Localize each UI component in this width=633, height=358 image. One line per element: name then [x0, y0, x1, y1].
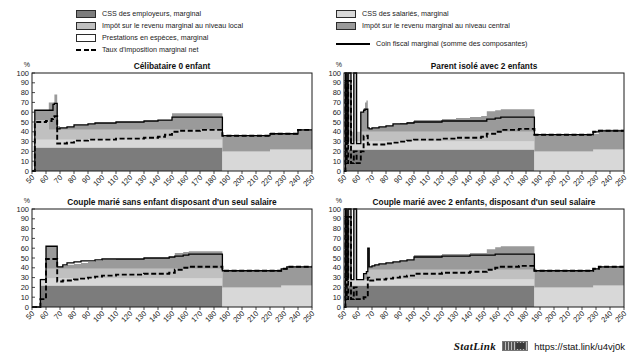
x-tick-label: 80: [378, 309, 390, 321]
x-tick-label: 220: [571, 173, 586, 188]
y-tick-label: 10: [333, 157, 341, 166]
x-tick-label: 220: [259, 173, 274, 188]
legend-label-local-income-tax: Impôt sur le revenu marginal au niveau l…: [102, 21, 243, 30]
chart-panel-parent-isole-2-enfants: Parent isolé avec 2 enfants%010203040506…: [318, 60, 630, 196]
legend-column-right: CSS des salariés, marginal Impôt sur le …: [336, 8, 527, 50]
statlink[interactable]: StatLink https://stat.link/u4vj0k: [454, 340, 625, 352]
chart-title: Parent isolé avec 2 enfants: [431, 61, 538, 71]
x-tick-label: 230: [273, 173, 288, 188]
y-tick-label: 50: [333, 118, 341, 127]
x-tick-label: 230: [585, 309, 600, 324]
x-tick-label: 60: [38, 309, 50, 321]
x-tick-label: 70: [52, 309, 64, 321]
x-tick-label: 90: [80, 173, 92, 185]
x-tick-label: 120: [119, 173, 134, 188]
x-tick-label: 130: [445, 309, 460, 324]
y-tick-label: 70: [21, 234, 29, 243]
x-tick-label: 240: [599, 173, 614, 188]
y-tick-label: 20: [21, 283, 29, 292]
chart-svg-couple-marie-sans-enfant: Couple marié sans enfant disposant d'un …: [6, 196, 318, 332]
y-tick-label: 80: [333, 224, 341, 233]
y-tick-label: 90: [333, 214, 341, 223]
x-tick-label: 240: [287, 309, 302, 324]
x-tick-label: 220: [259, 309, 274, 324]
legend-item-employee-sc: CSS des salariés, marginal: [336, 8, 527, 19]
x-tick-label: 120: [431, 309, 446, 324]
x-tick-label: 250: [613, 309, 628, 324]
x-tick-label: 130: [133, 309, 148, 324]
x-tick-label: 190: [217, 173, 232, 188]
y-tick-label: 10: [333, 293, 341, 302]
x-tick-label: 190: [529, 309, 544, 324]
legend-swatch-cash-benefits: [76, 34, 96, 42]
x-tick-label: 100: [91, 173, 106, 188]
chart-title: Couple marié avec 2 enfants, disposant d…: [373, 197, 596, 207]
y-tick-label: 100: [16, 69, 29, 78]
x-tick-label: 200: [231, 309, 246, 324]
x-tick-label: 150: [473, 173, 488, 188]
x-tick-label: 230: [585, 173, 600, 188]
x-tick-label: 110: [418, 309, 433, 324]
statlink-wordmark: StatLink: [454, 340, 496, 352]
x-tick-label: 140: [147, 173, 162, 188]
legend-item-net-marginal-rate: Taux d'imposition marginal net: [76, 44, 243, 55]
chart-panel-celibataire-0-enfant: Célibataire 0 enfant%0102030405060708090…: [6, 60, 318, 196]
y-axis-unit-label: %: [336, 61, 342, 68]
chart-svg-couple-marie-2-enfants: Couple marié avec 2 enfants, disposant d…: [318, 196, 630, 332]
y-tick-label: 30: [333, 273, 341, 282]
x-tick-label: 210: [245, 309, 260, 324]
y-tick-label: 60: [333, 244, 341, 253]
x-tick-label: 250: [613, 173, 628, 188]
x-tick-label: 160: [175, 309, 190, 324]
y-tick-label: 40: [333, 127, 341, 136]
y-tick-label: 90: [21, 78, 29, 87]
x-tick-label: 220: [571, 309, 586, 324]
x-tick-label: 170: [501, 309, 516, 324]
legend-swatch-central-income-tax: [336, 22, 356, 30]
x-tick-label: 190: [529, 173, 544, 188]
legend-item-local-income-tax: Impôt sur le revenu marginal au niveau l…: [76, 20, 243, 31]
x-tick-label: 230: [273, 309, 288, 324]
x-tick-label: 180: [203, 173, 218, 188]
legend-swatch-local-income-tax: [76, 22, 96, 30]
legend-solid-line-icon: [336, 40, 370, 48]
x-tick-label: 70: [364, 173, 376, 185]
x-tick-label: 150: [161, 173, 176, 188]
chart-title: Célibataire 0 enfant: [134, 61, 211, 71]
y-tick-label: 70: [21, 98, 29, 107]
x-tick-label: 150: [161, 309, 176, 324]
legend-item-marginal-tax-wedge: Coin fiscal marginal (somme des composan…: [336, 38, 527, 49]
x-tick-label: 60: [38, 173, 50, 185]
y-tick-label: 30: [21, 137, 29, 146]
y-axis-unit-label: %: [24, 197, 30, 204]
x-tick-label: 70: [364, 309, 376, 321]
legend-label-employee-sc: CSS des salariés, marginal: [362, 9, 449, 18]
chart-panel-couple-marie-sans-enfant: Couple marié sans enfant disposant d'un …: [6, 196, 318, 332]
x-tick-label: 70: [52, 173, 64, 185]
y-tick-label: 40: [333, 263, 341, 272]
legend-dashed-line-icon: [76, 46, 96, 54]
x-tick-label: 240: [287, 173, 302, 188]
x-tick-label: 110: [106, 173, 121, 188]
x-tick-label: 140: [459, 309, 474, 324]
x-tick-label: 110: [418, 173, 433, 188]
figure-footer: StatLink https://stat.link/u4vj0k: [0, 334, 633, 354]
y-tick-label: 40: [21, 127, 29, 136]
x-tick-label: 110: [106, 309, 121, 324]
y-tick-label: 70: [333, 98, 341, 107]
x-tick-label: 100: [403, 309, 418, 324]
legend-item-employer-sc: CSS des employeurs, marginal: [76, 8, 243, 19]
x-tick-label: 190: [217, 309, 232, 324]
x-tick-label: 60: [350, 173, 362, 185]
statlink-url[interactable]: https://stat.link/u4vj0k: [534, 341, 625, 352]
x-tick-label: 250: [301, 173, 316, 188]
y-tick-label: 10: [21, 157, 29, 166]
y-tick-label: 20: [21, 147, 29, 156]
x-tick-label: 180: [203, 309, 218, 324]
y-tick-label: 10: [21, 293, 29, 302]
y-tick-label: 30: [21, 273, 29, 282]
x-tick-label: 170: [501, 173, 516, 188]
x-tick-label: 210: [557, 173, 572, 188]
y-tick-label: 90: [333, 78, 341, 87]
chart-svg-celibataire-0-enfant: Célibataire 0 enfant%0102030405060708090…: [6, 60, 318, 196]
